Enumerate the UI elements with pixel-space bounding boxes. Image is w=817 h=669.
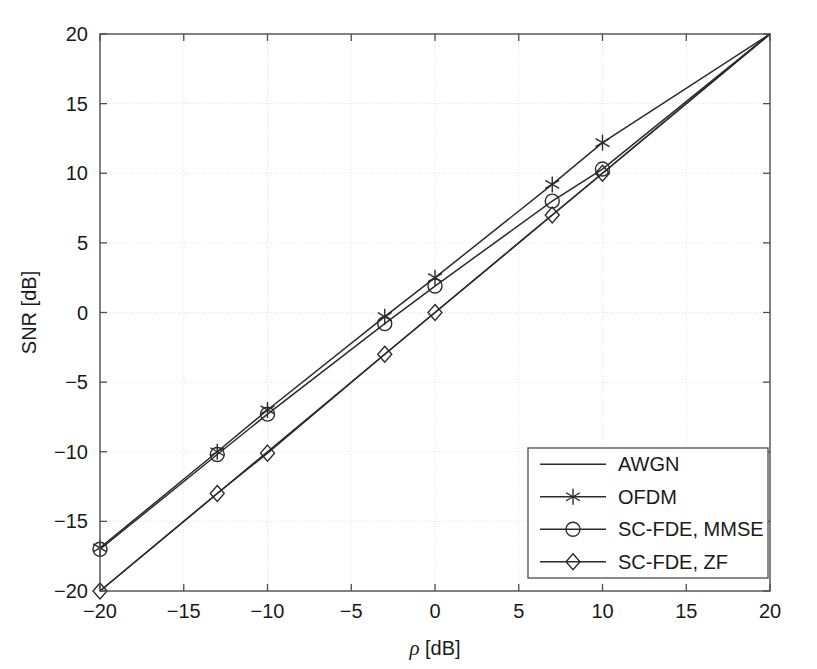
y-tick-label: 5 <box>77 232 88 254</box>
x-tick-label: −20 <box>83 600 117 622</box>
x-tick-labels: −20−15−10−505101520 <box>83 600 781 622</box>
y-axis-title: SNR [dB] <box>18 271 40 354</box>
y-tick-label: −5 <box>65 371 88 393</box>
x-axis-title: ρ [dB] <box>408 636 460 660</box>
legend-entry-label: AWGN <box>618 453 679 475</box>
y-tick-label: −15 <box>54 510 88 532</box>
y-axis-title-text: SNR [dB] <box>18 271 40 354</box>
y-tick-label: 10 <box>66 162 88 184</box>
x-tick-label: 20 <box>759 600 781 622</box>
y-tick-label: 0 <box>77 302 88 324</box>
y-tick-labels: −20−15−10−505101520 <box>54 23 88 602</box>
chart-figure: −20−15−10−505101520 −20−15−10−505101520 … <box>0 0 817 669</box>
marker-asterisk <box>210 444 224 460</box>
marker-asterisk <box>545 176 559 192</box>
y-tick-label: −10 <box>54 441 88 463</box>
x-tick-label: −10 <box>251 600 285 622</box>
y-tick-label: 15 <box>66 93 88 115</box>
legend-entry-label: SC-FDE, MMSE <box>618 518 764 540</box>
x-tick-label: 5 <box>513 600 524 622</box>
legend-entry-label: OFDM <box>618 486 677 508</box>
x-tick-label: 15 <box>675 600 697 622</box>
y-tick-label: −20 <box>54 580 88 602</box>
marker-asterisk <box>596 135 610 151</box>
x-axis-title-text: ρ [dB] <box>408 636 460 660</box>
plot-canvas: −20−15−10−505101520 −20−15−10−505101520 … <box>0 0 817 669</box>
legend-entry-label: SC-FDE, ZF <box>618 551 728 573</box>
x-tick-label: −5 <box>340 600 363 622</box>
x-tick-label: 0 <box>429 600 440 622</box>
x-tick-label: 10 <box>591 600 613 622</box>
legend: AWGNOFDMSC-FDE, MMSESC-FDE, ZF <box>528 448 768 578</box>
y-tick-label: 20 <box>66 23 88 45</box>
x-tick-label: −15 <box>167 600 201 622</box>
